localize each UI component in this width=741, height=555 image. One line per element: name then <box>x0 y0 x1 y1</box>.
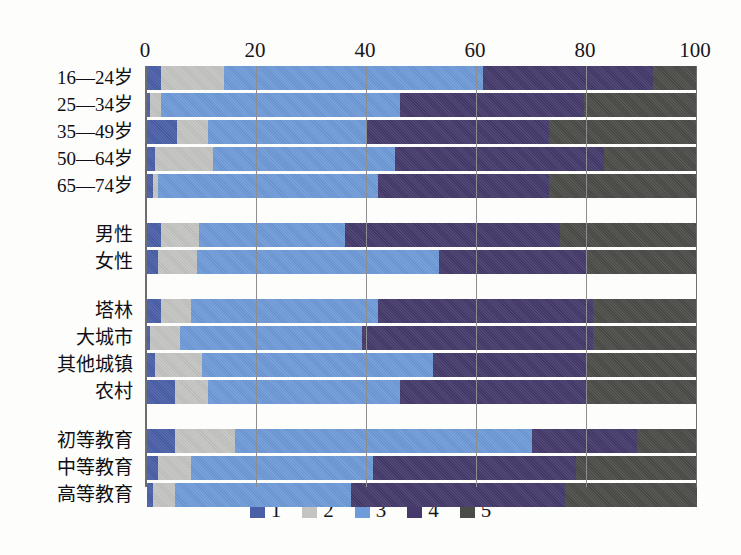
bar-segment-series-2 <box>158 250 197 274</box>
x-axis-tick-40: 40 <box>355 38 376 62</box>
bar-segment-series-4 <box>362 326 593 350</box>
bar-segment-series-1 <box>147 429 175 453</box>
bar-row <box>147 223 697 247</box>
category-label-location: 其他城镇 <box>57 355 133 374</box>
category-label-age: 16—24岁 <box>57 68 133 87</box>
bar-segment-series-3 <box>199 223 345 247</box>
bar-segment-series-2 <box>175 429 236 453</box>
plot-area <box>145 66 697 487</box>
bar-segment-series-5 <box>593 326 698 350</box>
bar-segment-series-4 <box>400 380 587 404</box>
x-axis-tick-20: 20 <box>245 38 266 62</box>
bar-segment-series-5 <box>593 299 698 323</box>
bar-segment-series-3 <box>208 380 401 404</box>
category-label-location: 大城市 <box>76 328 133 347</box>
bar-segment-series-3 <box>197 250 439 274</box>
bar-segment-series-5 <box>565 483 697 507</box>
bar-segment-series-1 <box>147 66 161 90</box>
bar-segment-series-1 <box>147 120 177 144</box>
bar-segment-series-4 <box>378 174 549 198</box>
bar-row <box>147 353 697 377</box>
bar-segment-series-3 <box>202 353 433 377</box>
category-label-age: 35—49岁 <box>57 122 133 141</box>
bar-segment-series-5 <box>587 380 697 404</box>
stacked-bar-chart: 020406080100 16—24岁25—34岁35—49岁50—64岁65—… <box>0 0 741 555</box>
bar-segment-series-2 <box>161 66 224 90</box>
bar-row <box>147 174 697 198</box>
bar-segment-series-3 <box>208 120 368 144</box>
bar-segment-series-4 <box>483 66 654 90</box>
bar-segment-series-5 <box>587 250 697 274</box>
bar-row <box>147 380 697 404</box>
x-axis-tick-0: 0 <box>140 38 151 62</box>
bar-segment-series-2 <box>158 456 191 480</box>
bar-row <box>147 299 697 323</box>
bar-segment-series-4 <box>378 299 593 323</box>
bar-segment-series-5 <box>576 456 697 480</box>
bar-segment-series-3 <box>161 93 400 117</box>
bar-segment-series-3 <box>180 326 362 350</box>
bar-segment-series-4 <box>532 429 637 453</box>
bar-segment-series-4 <box>345 223 560 247</box>
bar-row <box>147 326 697 350</box>
category-label-education: 中等教育 <box>57 458 133 477</box>
bar-row <box>147 93 697 117</box>
bar-row <box>147 147 697 171</box>
bar-segment-series-5 <box>549 174 698 198</box>
bar-segment-series-2 <box>175 380 208 404</box>
bar-segment-series-1 <box>147 223 161 247</box>
bar-row <box>147 250 697 274</box>
bar-row <box>147 120 697 144</box>
bar-segment-series-5 <box>653 66 697 90</box>
category-label-location: 农村 <box>95 382 133 401</box>
bar-segment-series-4 <box>351 483 566 507</box>
x-axis-tick-100: 100 <box>679 38 711 62</box>
category-label-education: 初等教育 <box>57 431 133 450</box>
bar-segment-series-4 <box>433 353 587 377</box>
category-label-age: 25—34岁 <box>57 95 133 114</box>
category-label-gender: 男性 <box>95 225 133 244</box>
bar-segment-series-2 <box>161 223 200 247</box>
category-axis-labels: 16—24岁25—34岁35—49岁50—64岁65—74岁男性女性塔林大城市其… <box>0 66 139 487</box>
bar-segment-series-1 <box>147 299 161 323</box>
bar-segment-series-5 <box>560 223 698 247</box>
bar-segment-series-5 <box>549 120 698 144</box>
bar-segment-series-3 <box>191 456 373 480</box>
bar-segment-series-4 <box>367 120 549 144</box>
bar-row <box>147 66 697 90</box>
bar-row <box>147 456 697 480</box>
bar-segment-series-3 <box>224 66 483 90</box>
bar-segment-series-1 <box>147 456 158 480</box>
bar-segment-series-5 <box>587 353 697 377</box>
bar-segment-series-1 <box>147 147 155 171</box>
bar-segment-series-1 <box>147 353 155 377</box>
bar-segment-series-4 <box>400 93 584 117</box>
x-axis-tick-labels: 020406080100 <box>145 38 695 64</box>
bar-segment-series-2 <box>153 483 175 507</box>
bar-segment-series-4 <box>439 250 588 274</box>
x-axis-tick-60: 60 <box>465 38 486 62</box>
bar-segment-series-1 <box>147 250 158 274</box>
x-axis-tick-80: 80 <box>575 38 596 62</box>
bar-segment-series-5 <box>604 147 698 171</box>
bar-segment-series-2 <box>150 93 161 117</box>
bar-segment-series-2 <box>150 326 180 350</box>
bar-segment-series-5 <box>637 429 698 453</box>
bar-segment-series-3 <box>158 174 378 198</box>
category-label-age: 50—64岁 <box>57 149 133 168</box>
bar-segment-series-3 <box>175 483 351 507</box>
bar-segment-series-4 <box>373 456 577 480</box>
category-label-gender: 女性 <box>95 252 133 271</box>
bar-row <box>147 429 697 453</box>
bar-segment-series-2 <box>161 299 191 323</box>
bar-segment-series-3 <box>235 429 532 453</box>
bar-segment-series-2 <box>177 120 207 144</box>
bar-segment-series-1 <box>147 380 175 404</box>
bar-segment-series-3 <box>213 147 395 171</box>
bar-segment-series-4 <box>395 147 604 171</box>
bar-segment-series-2 <box>155 353 202 377</box>
bar-segment-series-5 <box>584 93 697 117</box>
category-label-age: 65—74岁 <box>57 176 133 195</box>
bar-segment-series-3 <box>191 299 378 323</box>
bar-rows <box>147 66 697 487</box>
